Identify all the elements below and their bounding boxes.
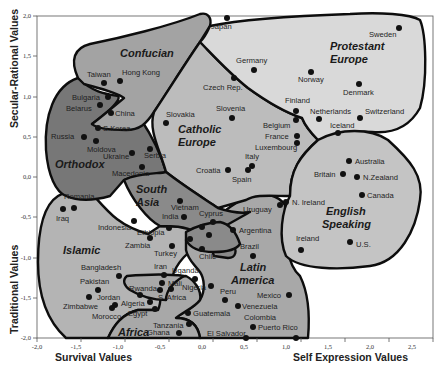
region-label-protestant: Protestant [330, 40, 386, 52]
svg-text:Indonesia: Indonesia [98, 223, 132, 232]
dot-switzerland [357, 115, 363, 121]
svg-text:Ukraine: Ukraine [103, 152, 129, 161]
svg-text:1,5: 1,5 [23, 52, 31, 59]
dot-slovakia [163, 120, 169, 126]
dot-canada [359, 192, 365, 198]
svg-text:Finland: Finland [285, 96, 310, 105]
svg-text:Venezuela: Venezuela [242, 302, 278, 311]
svg-text:Guatemala: Guatemala [193, 309, 231, 318]
svg-text:Zimbabwe: Zimbabwe [63, 302, 98, 311]
dot-hong-kong [117, 78, 123, 84]
dot-slovenia [229, 115, 235, 121]
svg-text:-1,0: -1,0 [21, 254, 31, 261]
cultural-map-chart: -2,0 -1,5 -1,0 -0,5 0,0 0,5 1,0 1,5 2,0 … [0, 0, 437, 367]
dot-spain [245, 167, 251, 173]
dot-nigeria [208, 283, 214, 289]
region-label-africa: Africa [117, 326, 149, 338]
svg-text:S.Korea: S.Korea [103, 124, 131, 133]
svg-text:Uruguay: Uruguay [243, 205, 272, 214]
svg-text:Morocco: Morocco [92, 312, 121, 321]
svg-text:Vietnam: Vietnam [171, 203, 199, 212]
dot-nireland [283, 199, 289, 205]
svg-text:Belarus: Belarus [66, 104, 92, 113]
dot-bulgaria [105, 94, 111, 100]
svg-text:-1,5: -1,5 [21, 294, 31, 301]
region-label-south-asia-2: Asia [135, 196, 159, 208]
svg-text:-0,5: -0,5 [21, 213, 31, 220]
svg-text:-0,5: -0,5 [155, 343, 165, 350]
svg-text:Bulgaria: Bulgaria [72, 93, 101, 102]
y-axis-title-secular: Secular-Rational Values [8, 9, 20, 128]
svg-text:-1,0: -1,0 [113, 343, 123, 350]
dot-uganda [192, 276, 198, 282]
svg-text:0,5: 0,5 [240, 343, 248, 350]
svg-text:Czech Rep.: Czech Rep. [203, 83, 243, 92]
svg-text:2,0: 2,0 [23, 12, 31, 19]
dot-iran [161, 272, 167, 278]
dot-belarus [97, 102, 103, 108]
svg-text:U.S.: U.S. [356, 240, 371, 249]
dot-finland [293, 108, 299, 114]
svg-text:Zambia: Zambia [125, 241, 151, 250]
svg-text:France: France [265, 132, 289, 141]
dot-australia [346, 158, 352, 164]
region-label-orthodox: Orthodox [55, 158, 105, 170]
dot-ireland [298, 247, 304, 253]
dot-us [347, 239, 353, 245]
dot-indonesia [131, 218, 137, 224]
svg-text:Germany: Germany [236, 56, 267, 65]
region-label-confucian: Confucian [120, 47, 174, 59]
y-axis [33, 16, 37, 338]
dot-argentina [230, 227, 236, 233]
svg-text:Brazil: Brazil [240, 242, 259, 251]
svg-text:Canada: Canada [367, 191, 394, 200]
dot-cyprus [210, 219, 216, 225]
dot-netherlands [316, 116, 322, 122]
dot-algeria [147, 299, 153, 305]
region-label-english-2: Speaking [322, 218, 371, 230]
dot-czech [231, 75, 237, 81]
svg-text:Norway: Norway [298, 75, 324, 84]
svg-text:Hong Kong: Hong Kong [122, 68, 160, 77]
dot-croatia [225, 167, 231, 173]
svg-text:Britain: Britain [314, 170, 336, 179]
dot-japan [224, 15, 230, 21]
svg-text:0,5: 0,5 [23, 133, 31, 140]
svg-text:El Salvador: El Salvador [207, 329, 246, 338]
dot-bangladesh [116, 273, 122, 279]
svg-text:Iceland: Iceland [330, 121, 355, 130]
svg-text:1,0: 1,0 [23, 93, 31, 100]
dot-sweden [396, 25, 402, 31]
dot-malta [187, 236, 193, 242]
svg-text:Luxembourg: Luxembourg [255, 143, 297, 152]
svg-text:Ghana: Ghana [147, 328, 171, 337]
svg-text:Rwanda: Rwanda [129, 284, 158, 293]
svg-text:Ireland: Ireland [296, 234, 319, 243]
svg-text:0,0: 0,0 [198, 343, 206, 350]
dot-taiwan [101, 80, 107, 86]
svg-text:Taiwan: Taiwan [87, 70, 111, 79]
dot-poland [206, 232, 212, 238]
svg-text:Iraq: Iraq [56, 214, 69, 223]
svg-text:N. Ireland: N. Ireland [292, 198, 325, 207]
svg-text:Switzerland: Switzerland [365, 107, 404, 116]
svg-text:-2,0: -2,0 [21, 334, 31, 341]
dot-puerto-rico [250, 324, 256, 330]
svg-text:0,0: 0,0 [23, 173, 31, 180]
svg-text:Peru: Peru [220, 287, 236, 296]
svg-text:Iran: Iran [154, 262, 167, 271]
svg-text:Cyprus: Cyprus [199, 209, 223, 218]
region-label-catholic-2: Europe [178, 136, 216, 148]
dot-france [294, 133, 300, 139]
dot-iraq [60, 206, 66, 212]
svg-text:Sweden: Sweden [369, 30, 396, 39]
region-label-catholic: Catholic [178, 123, 221, 135]
dot-morocco [109, 305, 115, 311]
dot-britain [340, 171, 346, 177]
svg-text:2,0: 2,0 [366, 343, 374, 350]
dot-nzealand [354, 174, 360, 180]
dot-moldova [93, 138, 99, 144]
svg-text:Mexico: Mexico [257, 291, 281, 300]
svg-text:N.Zealand: N.Zealand [363, 173, 398, 182]
svg-text:Croatia: Croatia [196, 166, 221, 175]
